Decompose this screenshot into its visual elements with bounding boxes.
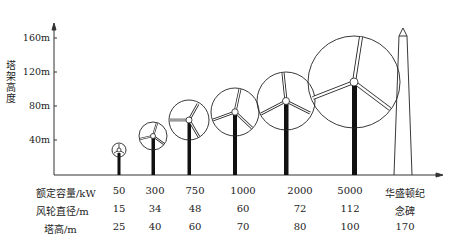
diameter-cell: 72 [294, 203, 307, 214]
capacity-cell: 2000 [287, 185, 312, 196]
turbine-5000kw [308, 36, 400, 175]
y-tick-160: 160m [20, 32, 50, 43]
row-label-capacity: 额定容量/kW [36, 185, 96, 200]
capacity-cell: 5000 [337, 185, 362, 196]
y-tick-40: 40m [20, 134, 50, 145]
y-axis-label: 塔架高度 [2, 60, 17, 104]
height-cell: 60 [189, 221, 202, 232]
capacity-cell: 50 [113, 185, 126, 196]
diameter-cell: 112 [340, 203, 359, 214]
y-tick-120: 120m [20, 66, 50, 77]
turbine-2000kw [257, 72, 315, 175]
capacity-cell: 750 [185, 185, 204, 196]
washington-monument [394, 28, 412, 175]
row-label-diameter: 风轮直径/m [36, 203, 89, 218]
turbine-750kw [169, 100, 209, 175]
height-cell: 80 [294, 221, 307, 232]
diameter-cell: 念碑 [395, 203, 415, 218]
diameter-cell: 60 [237, 203, 250, 214]
capacity-cell: 1000 [230, 185, 255, 196]
turbine-50kw [112, 143, 126, 175]
diameter-cell: 34 [149, 203, 162, 214]
axes [52, 23, 443, 177]
height-cell: 25 [113, 221, 126, 232]
y-tick-80: 80m [20, 100, 50, 111]
diameter-cell: 15 [113, 203, 126, 214]
turbine-300kw [139, 122, 167, 175]
height-cell: 170 [395, 221, 414, 232]
capacity-cell: 300 [145, 185, 164, 196]
height-cell: 40 [149, 221, 162, 232]
capacity-cell: 华盛顿纪 [385, 185, 425, 200]
turbine-1000kw [211, 88, 259, 175]
diameter-cell: 48 [189, 203, 202, 214]
height-cell: 100 [340, 221, 359, 232]
row-label-height: 塔高/m [44, 221, 77, 236]
height-cell: 70 [237, 221, 250, 232]
